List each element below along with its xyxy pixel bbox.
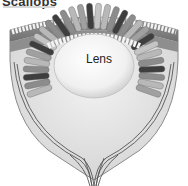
scallop-eye-diagram (0, 0, 188, 186)
lens-label: Lens (86, 52, 112, 66)
lens (54, 34, 134, 98)
photoreceptor-cell (23, 66, 49, 73)
photoreceptor-cell (139, 66, 165, 73)
